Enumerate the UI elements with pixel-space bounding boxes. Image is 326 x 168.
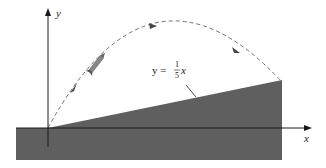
- line-label-var: x: [180, 64, 186, 76]
- projectile-diagram: y x y = 1 5 x: [0, 0, 326, 168]
- inclined-plane: [48, 80, 282, 128]
- y-axis-label: y: [55, 7, 61, 19]
- x-axis-arrow-icon: [304, 125, 312, 131]
- ground-region: [16, 128, 282, 160]
- trajectory-arrow-icon: [70, 83, 77, 93]
- label-leader-line: [186, 85, 196, 97]
- trajectory-arrow-icon: [232, 47, 240, 53]
- line-label-numerator: 1: [175, 60, 179, 69]
- rocket-icon: [86, 50, 108, 75]
- line-label-denominator: 5: [175, 71, 179, 80]
- y-axis-arrow-icon: [45, 8, 51, 16]
- x-axis-label: x: [303, 132, 309, 144]
- trajectory-arrow-icon: [149, 23, 157, 29]
- line-label-lhs: y =: [152, 64, 169, 76]
